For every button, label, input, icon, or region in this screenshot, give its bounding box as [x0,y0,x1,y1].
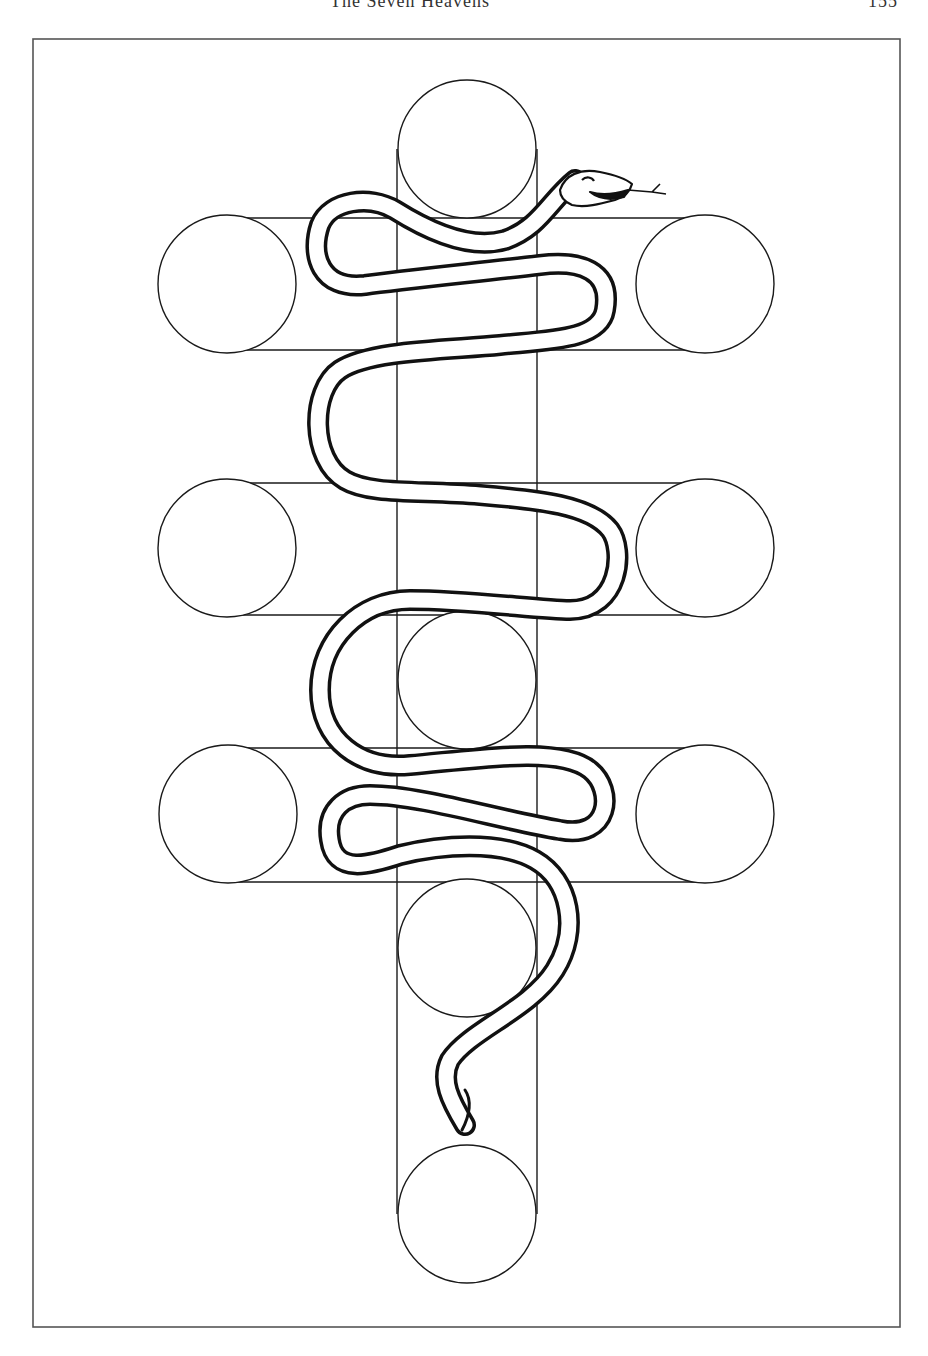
circle-row2-right [636,479,774,617]
circle-row3-left [159,745,297,883]
circle-row2-left [158,479,296,617]
circle-top-center [398,80,536,218]
tree-of-life-figure [0,0,928,1356]
circle-bottom-center [398,1145,536,1283]
circle-row3-right [636,745,774,883]
circle-row1-right [636,215,774,353]
circle-row1-left [158,215,296,353]
serpent-head [560,171,666,206]
circle-center [398,611,536,749]
serpent-tongue-forked [628,184,666,194]
sephiroth-circles [158,80,774,1283]
